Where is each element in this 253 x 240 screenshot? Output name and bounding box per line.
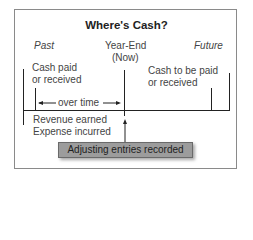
over-time-label: over time bbox=[58, 97, 99, 108]
expense-incurred-label: Expense incurred bbox=[33, 126, 111, 137]
adjusting-entries-callout: Adjusting entries recorded bbox=[58, 142, 193, 158]
revenue-earned-label: Revenue earned bbox=[33, 114, 107, 125]
